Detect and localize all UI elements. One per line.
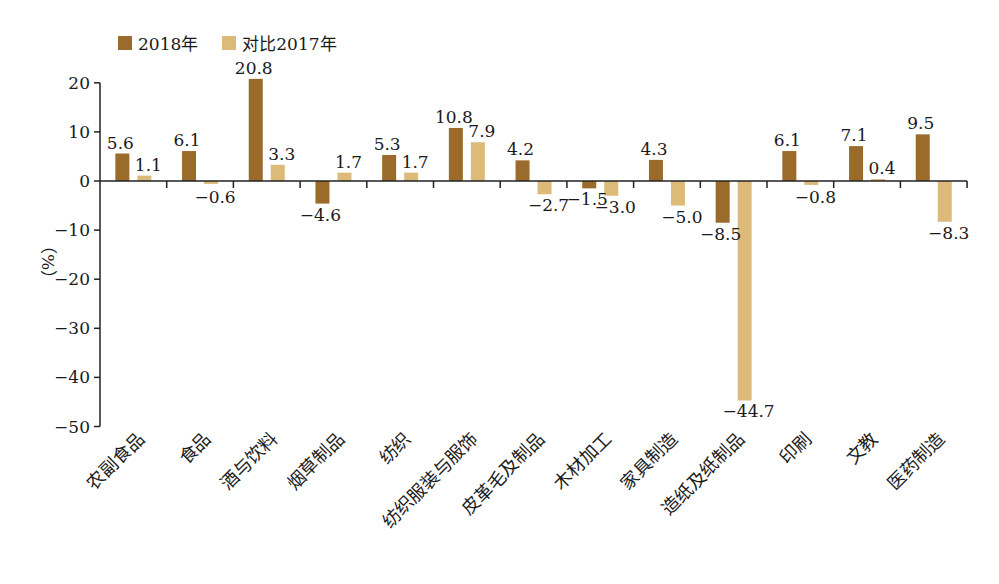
bar-vs-2017 [738,181,752,400]
data-label: −4.6 [300,205,341,225]
bar-vs-2017 [471,142,485,181]
bar-vs-2017 [137,176,151,181]
bar-2018 [916,134,930,181]
bar-2018 [516,160,530,181]
bar-vs-2017 [671,181,685,206]
bar-2018 [449,128,463,181]
category-label: 食品 [175,428,215,468]
data-label: 9.5 [907,113,934,133]
data-label: −8.5 [700,224,741,244]
bar-2018 [849,146,863,181]
y-tick-label: −40 [54,367,90,387]
data-label: 0.4 [869,158,896,178]
data-label: 1.7 [335,152,362,172]
bar-vs-2017 [938,181,952,222]
data-label: 7.1 [841,125,868,145]
y-axis: 20100−10−20−30−40−50 [54,73,100,437]
category-label: 医药制造 [883,428,949,494]
data-label: 6.1 [774,130,801,150]
bar-vs-2017 [337,173,351,181]
data-label: −5.0 [661,207,702,227]
y-axis-label: （%） [38,237,58,287]
y-tick-label: 0 [79,171,90,191]
y-tick-label: 10 [68,122,90,142]
data-label: 6.1 [174,130,201,150]
data-label: −3.0 [595,197,636,217]
bar-vs-2017 [271,165,285,181]
data-label: 1.1 [135,155,162,175]
data-label: −0.6 [194,187,235,207]
data-label: −8.3 [928,223,969,243]
data-label: 3.3 [268,144,295,164]
category-label: 烟草制品 [283,428,349,494]
data-label: 1.7 [402,152,429,172]
data-label: −2.7 [528,195,569,215]
data-label: 4.2 [507,139,534,159]
data-label: −44.7 [723,401,775,421]
data-label: 10.8 [435,107,473,127]
bar-2018 [315,181,329,204]
bar-2018 [649,160,663,181]
category-label: 家具制造 [616,428,682,494]
bars-group [115,79,951,401]
bar-vs-2017 [404,173,418,181]
category-labels-group: 农副食品食品酒与饮料烟草制品纺织纺织服装与服饰皮革毛及制品木材加工家具制造造纸及… [82,428,948,532]
bar-2018 [582,181,596,188]
data-label: 7.9 [468,121,495,141]
y-tick-label: −50 [54,417,90,437]
bar-2018 [249,79,263,181]
data-label: −0.8 [795,187,836,207]
category-label: 印刷 [775,428,815,468]
bar-2018 [716,181,730,223]
category-label: 文教 [842,428,882,468]
category-label: 农副食品 [82,428,148,494]
y-tick-label: −20 [54,269,90,289]
bar-2018 [115,154,129,181]
data-labels-group: 5.61.16.1−0.620.83.3−4.61.75.31.710.87.9… [107,58,970,422]
data-label: 5.3 [374,134,401,154]
y-tick-label: 20 [68,73,90,93]
category-label: 酒与饮料 [216,428,282,494]
data-label: 20.8 [235,58,273,78]
category-label: 纺织 [375,428,415,468]
data-label: 4.3 [640,139,667,159]
bar-2018 [782,151,796,181]
bar-vs-2017 [538,181,552,194]
data-label: 5.6 [107,133,134,153]
category-label: 木材加工 [549,428,615,494]
bar-2018 [182,151,196,181]
bar-chart: 20100−10−20−30−40−50 5.61.16.1−0.620.83.… [0,0,999,584]
y-tick-label: −10 [54,220,90,240]
bar-2018 [382,155,396,181]
y-tick-label: −30 [54,318,90,338]
